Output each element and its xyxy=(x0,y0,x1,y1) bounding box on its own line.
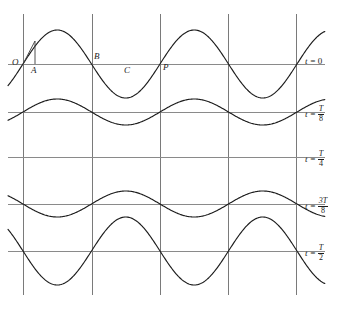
time-label-3: t =3T8 xyxy=(305,197,328,215)
time-label-fraction-1: T8 xyxy=(318,105,324,123)
standing-wave-figure: OABCP t =0t =T8t =T4t =3T8t =T2 xyxy=(0,0,343,309)
point-label-a: A xyxy=(31,66,37,75)
fraction-denominator-1: 8 xyxy=(318,115,324,124)
time-label-2: t =T4 xyxy=(305,150,324,168)
horizontal-baselines xyxy=(8,64,325,251)
point-label-p: P xyxy=(163,63,169,72)
time-label-1: t =T8 xyxy=(305,105,324,123)
point-label-b: B xyxy=(94,52,100,61)
oa-diagonal-segment xyxy=(23,41,35,64)
wave-plot-canvas xyxy=(0,0,343,309)
time-label-lhs-1: t = xyxy=(305,110,316,119)
time-label-value-0: 0 xyxy=(318,57,323,66)
fraction-denominator-3: 8 xyxy=(320,207,326,216)
time-label-fraction-4: T2 xyxy=(318,244,324,262)
time-label-fraction-3: 3T8 xyxy=(318,197,328,215)
fraction-denominator-2: 4 xyxy=(318,160,324,169)
time-label-lhs-0: t = xyxy=(305,57,316,66)
origin-marker-segments xyxy=(23,41,35,64)
time-label-lhs-3: t = xyxy=(305,202,316,211)
fraction-denominator-4: 2 xyxy=(318,254,324,263)
time-label-4: t =T2 xyxy=(305,244,324,262)
time-label-lhs-4: t = xyxy=(305,249,316,258)
vertical-grid-lines xyxy=(23,14,296,295)
time-label-lhs-2: t = xyxy=(305,155,316,164)
point-label-c: C xyxy=(124,66,130,75)
time-label-0: t =0 xyxy=(305,57,322,66)
time-label-fraction-2: T4 xyxy=(318,150,324,168)
point-label-o: O xyxy=(12,58,19,67)
